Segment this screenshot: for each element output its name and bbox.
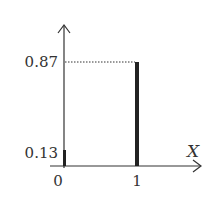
x-tick-label-1: 1 — [132, 172, 142, 190]
x-axis-label: X — [185, 141, 200, 161]
bar-x0 — [63, 150, 66, 166]
bar-x1 — [135, 62, 139, 166]
y-tick-label-low: 0.13 — [25, 144, 58, 162]
y-tick-label-high: 0.87 — [25, 53, 58, 71]
pmf-chart: 0.87 0.13 0 1 X — [0, 0, 219, 199]
x-tick-label-0: 0 — [53, 172, 63, 190]
